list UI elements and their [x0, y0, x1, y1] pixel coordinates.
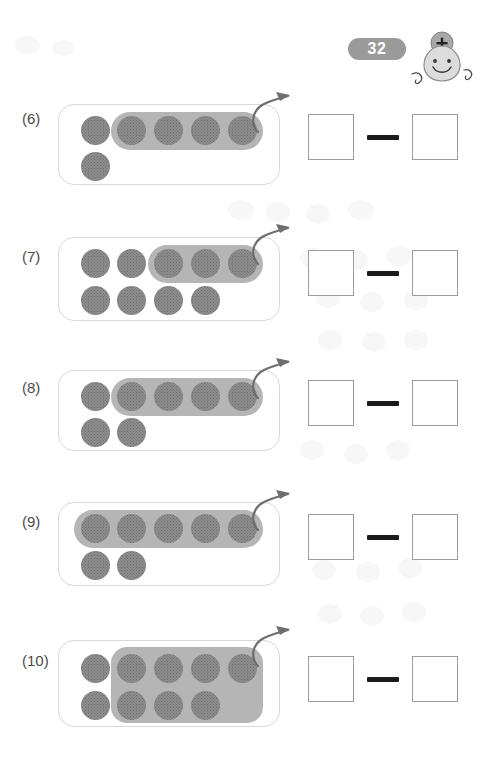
counter [117, 116, 146, 145]
answer-box-subtrahend[interactable] [412, 656, 458, 702]
takeaway-arrow-icon [236, 220, 292, 268]
problem-label: (10) [22, 652, 49, 669]
counter [154, 286, 183, 315]
counter [117, 551, 146, 580]
counter [191, 286, 220, 315]
problem-label: (9) [22, 513, 40, 530]
counter [191, 116, 220, 145]
counter [81, 382, 110, 411]
page-header: 32 [348, 30, 478, 92]
counter [191, 514, 220, 543]
counter [117, 654, 146, 683]
takeaway-arrow-icon [236, 354, 292, 402]
counter [154, 382, 183, 411]
answer-box-minuend[interactable] [308, 380, 354, 426]
answer-box-minuend[interactable] [308, 656, 354, 702]
counter [81, 249, 110, 278]
problem-label: (7) [22, 248, 40, 265]
counter [81, 691, 110, 720]
answer-box-minuend[interactable] [308, 114, 354, 160]
counter [81, 152, 110, 181]
counter [117, 418, 146, 447]
minus-sign-icon [367, 677, 399, 682]
minus-sign-icon [367, 535, 399, 540]
counter [191, 691, 220, 720]
counter [117, 382, 146, 411]
problem-label: (6) [22, 110, 40, 127]
answer-area [308, 250, 460, 298]
minus-sign-icon [367, 401, 399, 406]
counter [81, 514, 110, 543]
page-number-badge: 32 [348, 38, 406, 60]
counter [154, 116, 183, 145]
takeaway-arrow-icon [236, 622, 292, 670]
counter [191, 654, 220, 683]
counter [81, 418, 110, 447]
counter [81, 654, 110, 683]
answer-box-subtrahend[interactable] [412, 114, 458, 160]
counter [117, 691, 146, 720]
counter [81, 551, 110, 580]
counter [191, 382, 220, 411]
problem-label: (8) [22, 379, 40, 396]
counter [81, 286, 110, 315]
takeaway-arrow-icon [236, 486, 292, 534]
minus-sign-icon [367, 135, 399, 140]
answer-box-subtrahend[interactable] [412, 380, 458, 426]
answer-area [308, 114, 460, 162]
answer-area [308, 656, 460, 704]
answer-box-subtrahend[interactable] [412, 514, 458, 560]
mascot-character-icon [406, 30, 478, 92]
answer-box-minuend[interactable] [308, 514, 354, 560]
counter [117, 514, 146, 543]
counter [154, 654, 183, 683]
counter [154, 691, 183, 720]
takeaway-arrow-icon [236, 88, 292, 136]
answer-area [308, 514, 460, 562]
counter [117, 286, 146, 315]
answer-box-subtrahend[interactable] [412, 250, 458, 296]
minus-sign-icon [367, 271, 399, 276]
answer-box-minuend[interactable] [308, 250, 354, 296]
counter [154, 249, 183, 278]
answer-area [308, 380, 460, 428]
counter [117, 249, 146, 278]
counter [191, 249, 220, 278]
counter [81, 116, 110, 145]
counter [154, 514, 183, 543]
